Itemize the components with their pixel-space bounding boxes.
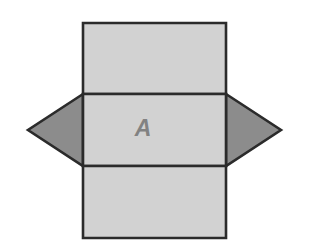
net-diagram: A (0, 0, 310, 250)
figure-canvas: A (0, 0, 310, 250)
bottom-rectangle-face (83, 166, 226, 238)
top-rectangle-face (83, 23, 226, 94)
middle-rectangle-face (83, 94, 226, 166)
face-label-a: A (134, 115, 152, 141)
